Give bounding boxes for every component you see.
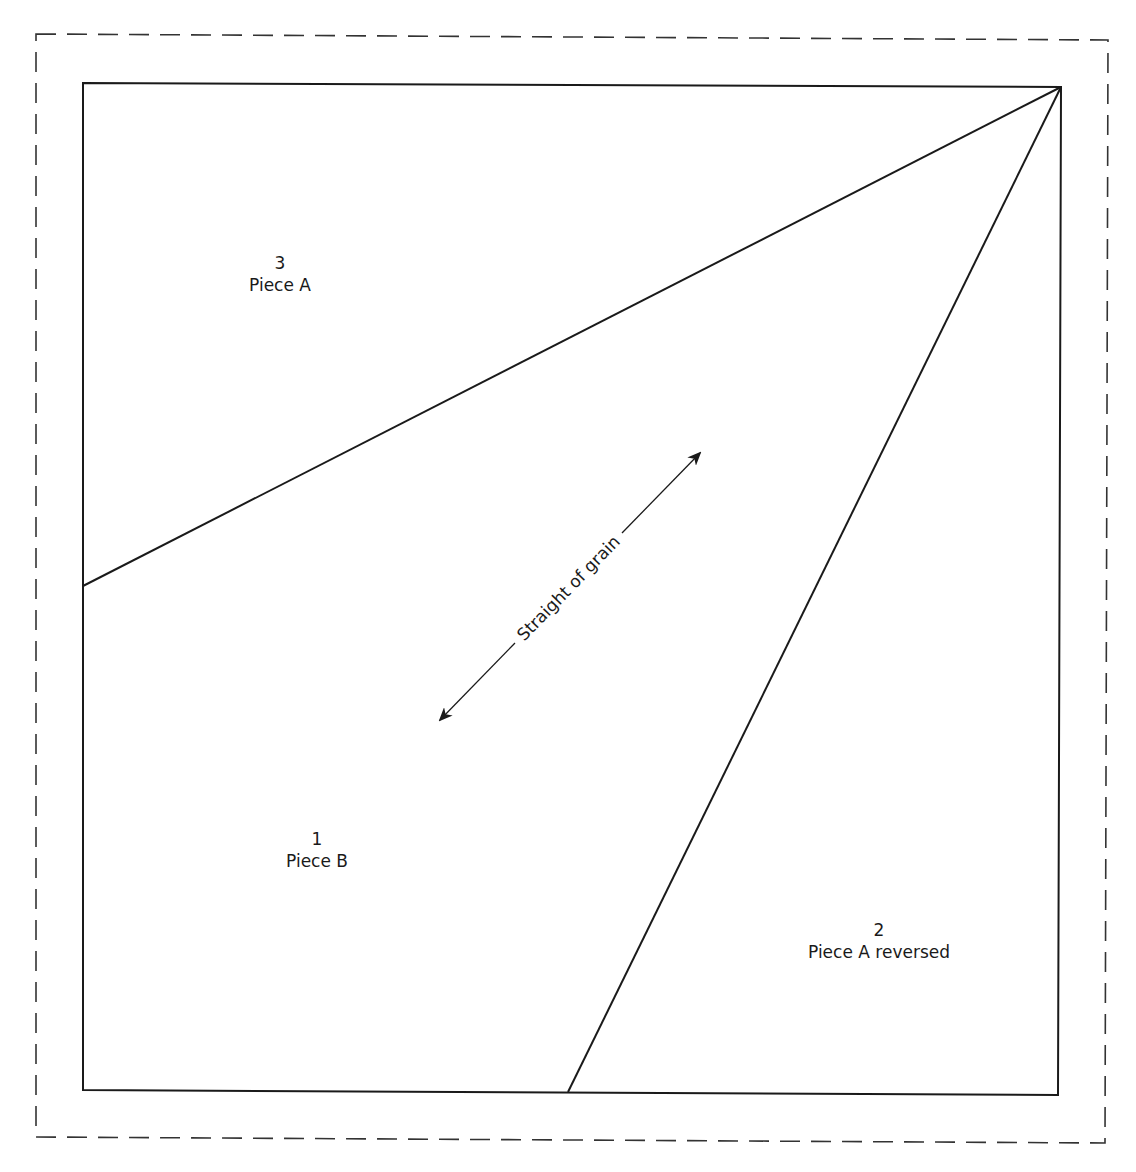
piece-label-2: 2 Piece A reversed — [808, 919, 950, 963]
piece-name: Piece B — [286, 850, 348, 872]
piece-number: 2 — [808, 919, 950, 941]
grain-arrow-lower — [440, 643, 515, 720]
piece-number: 1 — [286, 828, 348, 850]
piece-label-3: 3 Piece A — [249, 252, 311, 296]
piece-label-1: 1 Piece B — [286, 828, 348, 872]
piece-number: 3 — [249, 252, 311, 274]
seam-line-upper — [83, 87, 1061, 586]
piece-name: Piece A — [249, 274, 311, 296]
piece-name: Piece A reversed — [808, 941, 950, 963]
grain-arrow-upper — [622, 453, 700, 533]
